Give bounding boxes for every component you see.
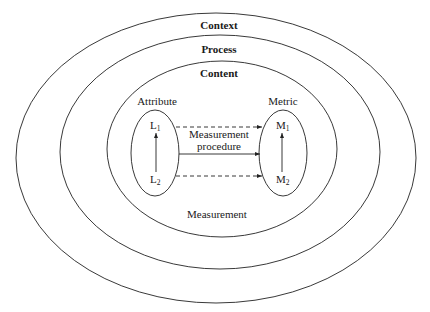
measurement-diagram: Context Process Content Attribute L1 L2 … xyxy=(0,0,430,312)
procedure-label-line1: Measurement xyxy=(189,128,249,140)
context-label: Context xyxy=(200,19,238,31)
content-label: Content xyxy=(200,67,238,79)
procedure-label-line2: procedure xyxy=(197,140,241,152)
context-ellipse xyxy=(16,13,416,303)
metric-bottom-node: M2 xyxy=(276,173,290,187)
process-label: Process xyxy=(201,43,237,55)
attribute-label: Attribute xyxy=(137,95,177,107)
metric-top-node: M1 xyxy=(276,119,290,133)
attribute-bottom-node: L2 xyxy=(150,173,161,187)
attribute-top-node: L1 xyxy=(150,119,161,133)
metric-label: Metric xyxy=(268,95,297,107)
measurement-label: Measurement xyxy=(187,208,247,220)
